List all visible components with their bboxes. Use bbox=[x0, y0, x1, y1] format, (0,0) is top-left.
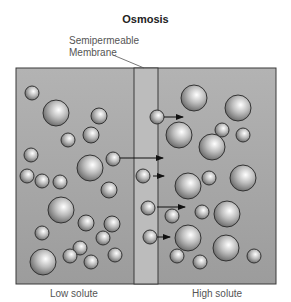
osmosis-diagram bbox=[0, 0, 291, 302]
solute-molecule-right bbox=[230, 165, 256, 191]
solute-molecule-left bbox=[61, 133, 75, 147]
solute-molecule-left bbox=[91, 108, 107, 124]
solute-molecule-left bbox=[20, 169, 34, 183]
solute-molecule-right bbox=[175, 173, 201, 199]
solute-molecule-left bbox=[108, 248, 122, 262]
solute-molecule-left bbox=[24, 148, 38, 162]
solute-molecule-right bbox=[166, 122, 192, 148]
solute-molecule-left bbox=[35, 174, 49, 188]
solute-molecule-left bbox=[30, 249, 56, 275]
solute-molecule-left bbox=[53, 175, 67, 189]
solute-molecule-left bbox=[96, 231, 110, 245]
solute-molecule-right bbox=[195, 205, 209, 219]
diagram-layer bbox=[16, 55, 276, 284]
high-solute-label: High solute bbox=[192, 288, 242, 299]
solute-molecule-right bbox=[199, 134, 225, 160]
solute-molecule-left bbox=[48, 197, 74, 223]
solute-molecule-right bbox=[143, 230, 157, 244]
solute-molecule-right bbox=[181, 85, 207, 111]
solute-molecule-left bbox=[83, 127, 99, 143]
solute-molecule-left bbox=[25, 86, 39, 100]
membrane-pointer-line bbox=[113, 55, 144, 68]
solute-molecule-right bbox=[213, 235, 239, 261]
solute-molecule-right bbox=[150, 110, 164, 124]
solute-molecule-left bbox=[104, 216, 120, 232]
solute-molecule-right bbox=[170, 249, 184, 263]
solute-molecule-right bbox=[193, 255, 207, 269]
solute-molecule-left bbox=[84, 255, 98, 269]
solute-molecule-left bbox=[77, 155, 103, 181]
solute-molecule-right bbox=[165, 209, 179, 223]
solute-molecule-left bbox=[106, 152, 120, 166]
solute-molecule-right bbox=[247, 249, 261, 263]
solute-molecule-left bbox=[78, 215, 94, 231]
solute-molecule-left bbox=[101, 182, 117, 198]
low-solute-label: Low solute bbox=[50, 288, 98, 299]
solute-molecule-right bbox=[214, 201, 240, 227]
solute-molecule-right bbox=[175, 225, 201, 251]
solute-molecule-left bbox=[43, 100, 69, 126]
solute-molecule-right bbox=[236, 128, 250, 142]
solute-molecule-right bbox=[136, 169, 150, 183]
solute-molecule-right bbox=[202, 171, 216, 185]
solute-molecule-right bbox=[225, 95, 251, 121]
solute-molecule-left bbox=[35, 226, 49, 240]
solute-molecule-left bbox=[63, 249, 77, 263]
solute-molecule-right bbox=[141, 201, 155, 215]
